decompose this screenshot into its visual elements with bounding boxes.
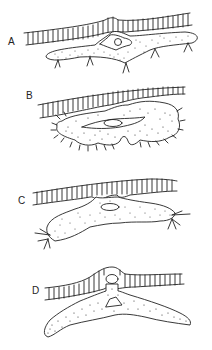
panel-c: C	[0, 177, 212, 255]
diagram-a	[0, 0, 212, 85]
panel-d: D	[0, 255, 212, 350]
diagram-d	[0, 255, 212, 350]
diagram-c	[0, 177, 212, 255]
panel-b: B	[0, 85, 212, 177]
diagram-b	[0, 85, 212, 177]
panel-a: A	[0, 0, 212, 85]
